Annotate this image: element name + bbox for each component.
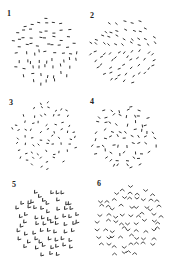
- chevron-mark: [134, 207, 138, 209]
- checkmark-mark: [69, 215, 72, 218]
- chevron-mark: [98, 215, 102, 217]
- chevron-mark: [106, 219, 110, 221]
- dash-mark: [138, 143, 140, 144]
- chevron-mark: [122, 252, 126, 254]
- dash-mark: [124, 52, 125, 54]
- dash-mark: [46, 125, 47, 126]
- dash-mark: [75, 136, 76, 137]
- chevron-mark: [151, 194, 155, 196]
- dash-mark: [111, 78, 112, 80]
- dash-mark: [41, 166, 42, 167]
- chevron-mark: [135, 193, 139, 195]
- panel-3-elements: [12, 102, 77, 170]
- chevron-mark: [133, 253, 137, 255]
- chevron-mark: [152, 214, 156, 216]
- panel-2-elements: [90, 21, 156, 83]
- dash-mark: [154, 42, 155, 44]
- checkmark-mark: [25, 232, 28, 235]
- checkmark-mark: [73, 221, 76, 224]
- checkmark-mark: [47, 228, 50, 231]
- dash-mark: [20, 157, 21, 158]
- checkmark-mark: [27, 240, 30, 243]
- dash-mark: [138, 38, 140, 39]
- dash-mark: [52, 135, 53, 136]
- dash-mark: [115, 78, 117, 79]
- dash-mark: [116, 35, 118, 36]
- dash-mark: [135, 115, 136, 117]
- dash-mark: [127, 109, 129, 110]
- dash-mark: [123, 152, 125, 153]
- dash-mark: [33, 157, 34, 158]
- chevron-mark: [152, 220, 156, 222]
- dash-mark: [118, 52, 120, 53]
- chevron-mark: [149, 199, 153, 201]
- dash-mark: [114, 164, 115, 166]
- dash-mark: [95, 132, 96, 134]
- dash-mark: [110, 72, 112, 73]
- dash-mark: [47, 129, 48, 130]
- dash-mark: [61, 129, 62, 130]
- dash-mark: [130, 59, 132, 60]
- chevron-mark: [122, 247, 126, 249]
- chevron-mark: [148, 209, 152, 211]
- checkmark-mark: [56, 191, 59, 194]
- dash-mark: [18, 130, 19, 131]
- dash-mark: [48, 107, 49, 108]
- chevron-mark: [99, 201, 103, 203]
- checkmark-mark: [64, 223, 67, 226]
- chevron-mark: [119, 236, 123, 238]
- checkmark-mark: [48, 237, 51, 240]
- dash-mark: [125, 73, 126, 75]
- checkmark-mark: [16, 206, 19, 209]
- dash-mark: [94, 51, 96, 52]
- chevron-mark: [112, 199, 116, 201]
- checkmark-mark: [25, 212, 28, 215]
- dash-mark: [38, 144, 39, 145]
- chevron-mark: [119, 204, 123, 206]
- dash-mark: [102, 145, 104, 146]
- chevron-mark: [126, 229, 130, 231]
- checkmark-mark: [39, 240, 42, 243]
- checkmark-mark: [35, 246, 38, 249]
- chevron-mark: [120, 189, 124, 191]
- dash-mark: [61, 109, 62, 110]
- dash-mark: [108, 23, 110, 24]
- dash-mark: [152, 132, 154, 133]
- checkmark-mark: [63, 214, 66, 217]
- dash-mark: [148, 68, 149, 70]
- dash-mark: [154, 137, 156, 138]
- chevron-mark: [141, 242, 145, 244]
- chevron-mark: [134, 230, 138, 232]
- dash-mark: [122, 44, 124, 46]
- chevron-mark: [141, 199, 145, 201]
- chevron-mark: [152, 229, 156, 231]
- dash-mark: [37, 154, 38, 155]
- dash-mark: [137, 57, 139, 58]
- dash-mark: [144, 28, 146, 29]
- checkmark-mark: [33, 231, 36, 234]
- checkmark-mark: [65, 206, 68, 209]
- dash-mark: [131, 39, 133, 40]
- checkmark-mark: [47, 210, 50, 213]
- dash-mark: [67, 115, 68, 116]
- dash-mark: [123, 80, 124, 82]
- chevron-mark: [105, 201, 109, 203]
- dash-mark: [31, 164, 32, 165]
- chevron-mark: [126, 251, 130, 253]
- checkmark-mark: [71, 229, 74, 232]
- dash-mark: [148, 52, 150, 54]
- chevron-mark: [100, 204, 104, 206]
- dash-mark: [123, 64, 125, 65]
- chevron-mark: [122, 227, 126, 229]
- dash-mark: [104, 129, 106, 130]
- chevron-mark: [119, 223, 123, 225]
- dash-mark: [104, 43, 106, 45]
- dash-mark: [148, 151, 150, 152]
- dash-mark: [12, 128, 13, 129]
- checkmark-mark: [56, 244, 59, 247]
- checkmark-mark: [21, 201, 24, 204]
- dash-mark: [110, 159, 112, 161]
- dash-mark: [144, 39, 146, 40]
- checkmark-mark: [61, 237, 64, 240]
- chevron-mark: [115, 193, 119, 195]
